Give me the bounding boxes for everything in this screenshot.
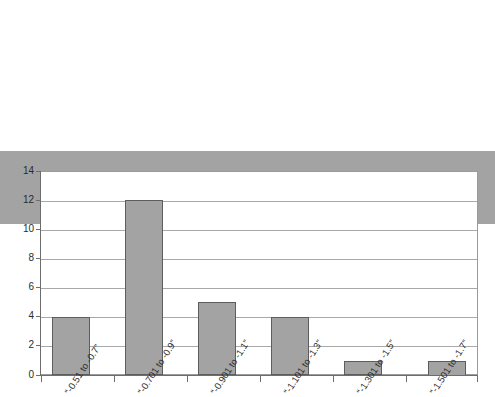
y-tick-10 [36, 229, 41, 230]
bar-chart: 14 12 10 8 6 4 2 0 “-0.51 to -0.7” “-0.7… [0, 151, 495, 224]
gridline-10 [41, 230, 477, 231]
gridline-8 [41, 259, 477, 260]
bar-1 [125, 200, 163, 375]
y-axis-label-6: 6 [4, 282, 34, 292]
y-axis-label-8: 8 [4, 253, 34, 263]
x-tick-0 [41, 376, 42, 382]
gridline-2 [41, 346, 477, 347]
gridline-6 [41, 288, 477, 289]
y-tick-12 [36, 200, 41, 201]
x-axis [40, 375, 478, 376]
plot-area [40, 171, 478, 375]
y-axis-tick-labels: 14 12 10 8 6 4 2 0 [0, 151, 34, 397]
y-tick-4 [36, 316, 41, 317]
y-tick-14 [36, 171, 41, 172]
y-axis-label-10: 10 [4, 224, 34, 234]
y-axis-label-4: 4 [4, 311, 34, 321]
y-axis-label-12: 12 [4, 195, 34, 205]
y-tick-2 [36, 345, 41, 346]
gridline-4 [41, 317, 477, 318]
y-axis-label-0: 0 [4, 370, 34, 380]
y-tick-6 [36, 287, 41, 288]
x-tick-2 [187, 376, 188, 382]
x-tick-5 [406, 376, 407, 382]
y-axis-label-2: 2 [4, 340, 34, 350]
x-tick-3 [260, 376, 261, 382]
gridline-12 [41, 201, 477, 202]
y-axis-label-14: 14 [4, 166, 34, 176]
y-tick-8 [36, 258, 41, 259]
x-tick-1 [114, 376, 115, 382]
x-tick-4 [333, 376, 334, 382]
x-tick-6 [477, 376, 478, 382]
